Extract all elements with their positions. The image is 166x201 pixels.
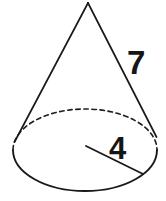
apex-vertex (87, 2, 89, 4)
radius-label: 4 (109, 133, 126, 164)
slant-height-label: 7 (127, 46, 145, 79)
cone-figure: 7 4 (0, 0, 166, 201)
cone-drawing (0, 0, 166, 201)
figure-background (0, 0, 166, 201)
